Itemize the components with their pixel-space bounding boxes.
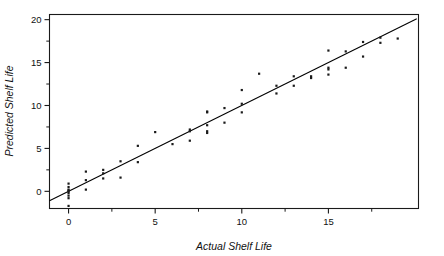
- data-point: [310, 77, 312, 79]
- x-axis-title: Actual Shelf Life: [195, 240, 272, 252]
- data-point: [258, 73, 260, 75]
- y-tick-label: 5: [36, 143, 41, 154]
- data-point: [223, 122, 225, 124]
- y-tick-label: 0: [36, 186, 41, 197]
- data-point: [345, 67, 347, 69]
- data-point: [171, 143, 173, 145]
- x-axis-tick-labels: 051015: [66, 216, 334, 227]
- data-point: [119, 160, 121, 162]
- y-tick-label: 20: [31, 14, 42, 25]
- y-axis-title: Predicted Shelf Life: [3, 65, 15, 156]
- data-point: [397, 37, 399, 39]
- data-point: [67, 192, 69, 194]
- data-point: [67, 183, 69, 185]
- data-point: [206, 132, 208, 134]
- data-point: [241, 111, 243, 113]
- data-point: [275, 92, 277, 94]
- data-point: [119, 177, 121, 179]
- data-point: [85, 189, 87, 191]
- y-axis-tick-labels: 05101520: [31, 14, 42, 197]
- data-point: [137, 145, 139, 147]
- plot-canvas: 05101520 051015 Actual Shelf Life Predic…: [0, 0, 444, 256]
- data-point: [241, 103, 243, 105]
- data-point: [293, 85, 295, 87]
- data-point: [189, 140, 191, 142]
- data-point: [379, 37, 381, 39]
- plot-frame: [50, 15, 419, 209]
- plot-border: [50, 15, 419, 209]
- data-point: [223, 107, 225, 109]
- data-point: [67, 197, 69, 199]
- data-point: [102, 177, 104, 179]
- scatter-plot-figure: 05101520 051015 Actual Shelf Life Predic…: [0, 0, 444, 256]
- data-point: [345, 50, 347, 52]
- data-point: [137, 161, 139, 163]
- x-tick-label: 10: [237, 216, 248, 227]
- data-point: [293, 75, 295, 77]
- data-point: [241, 89, 243, 91]
- y-tick-label: 10: [31, 100, 42, 111]
- data-point: [102, 169, 104, 171]
- data-point: [67, 195, 69, 197]
- data-point: [327, 73, 329, 75]
- x-axis-ticks: [69, 209, 372, 214]
- x-tick-label: 5: [153, 216, 158, 227]
- data-point: [206, 111, 208, 113]
- data-point: [362, 41, 364, 43]
- data-point: [362, 55, 364, 57]
- data-point: [102, 172, 104, 174]
- data-point: [327, 68, 329, 70]
- data-point: [327, 49, 329, 51]
- data-point: [154, 131, 156, 133]
- data-point: [379, 42, 381, 44]
- data-point: [67, 186, 69, 188]
- data-point: [206, 124, 208, 126]
- y-tick-label: 15: [31, 57, 42, 68]
- data-point: [85, 170, 87, 172]
- data-point: [85, 179, 87, 181]
- data-point: [275, 85, 277, 87]
- data-point: [189, 130, 191, 132]
- data-point: [67, 205, 69, 207]
- x-tick-label: 15: [323, 216, 334, 227]
- x-tick-label: 0: [66, 216, 71, 227]
- y-axis-ticks: [45, 20, 50, 192]
